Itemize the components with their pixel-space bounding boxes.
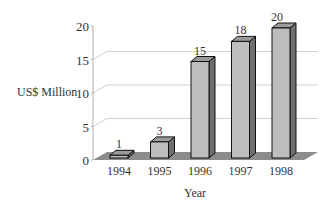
y-tick-label: 15 xyxy=(76,53,89,68)
y-tick-label: 20 xyxy=(76,19,89,34)
bar-side xyxy=(290,23,296,158)
bar-side xyxy=(250,36,256,158)
bar-1994 xyxy=(110,155,128,158)
bar-1996 xyxy=(191,62,209,159)
x-tick-label: 1997 xyxy=(229,164,253,178)
x-tick-label: 1998 xyxy=(269,164,293,178)
bar-1998 xyxy=(272,28,290,158)
x-tick-label: 1996 xyxy=(188,164,212,178)
y-tick-label: 5 xyxy=(83,120,90,135)
data-label: 15 xyxy=(194,44,206,58)
bar-side xyxy=(209,57,215,159)
chart-canvas: 051015201199431995151996181997201998 xyxy=(0,0,328,209)
data-label: 20 xyxy=(271,10,283,24)
data-label: 3 xyxy=(157,124,163,138)
bar-1995 xyxy=(151,142,169,158)
x-tick-label: 1994 xyxy=(107,164,131,178)
x-tick-label: 1995 xyxy=(148,164,172,178)
y-tick-label: 0 xyxy=(83,153,90,168)
data-label: 18 xyxy=(235,23,247,37)
data-label: 1 xyxy=(116,137,122,151)
bar-chart: 051015201199431995151996181997201998 US$… xyxy=(0,0,328,209)
x-axis-label: Year xyxy=(184,186,206,201)
y-tick-label: 10 xyxy=(76,86,89,101)
bar-1997 xyxy=(232,41,250,158)
y-axis-label: US$ Million xyxy=(17,85,77,100)
